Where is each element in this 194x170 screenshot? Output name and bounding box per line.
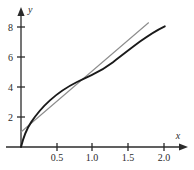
y-tick-label-8: 8 bbox=[8, 22, 13, 33]
x-tick-label-2-0: 2.0 bbox=[158, 152, 171, 163]
x-axis-label: x bbox=[175, 130, 181, 141]
y-axis-arrow-icon bbox=[17, 7, 24, 16]
x-tick-label-1-0: 1.0 bbox=[86, 152, 99, 163]
x-tick-label-1-5: 1.5 bbox=[122, 152, 135, 163]
x-axis-arrow-icon bbox=[179, 143, 188, 150]
y-tick-label-4: 4 bbox=[8, 82, 13, 93]
x-tick-label-0-5: 0.5 bbox=[51, 152, 64, 163]
y-tick-label-2: 2 bbox=[8, 112, 13, 123]
curve-series bbox=[21, 26, 165, 147]
y-axis-label: y bbox=[27, 4, 33, 15]
chart-plot-area: 2 4 6 8 0.5 1.0 1.5 2.0 y x bbox=[0, 0, 194, 170]
chart-figure: 2 4 6 8 0.5 1.0 1.5 2.0 y x bbox=[0, 0, 194, 170]
y-tick-label-6: 6 bbox=[8, 52, 13, 63]
